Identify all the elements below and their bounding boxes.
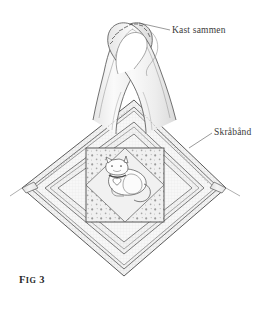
caption-number-value: 3 bbox=[39, 274, 45, 285]
cat-eye-left bbox=[111, 165, 113, 167]
center-panel bbox=[86, 148, 164, 222]
label-skraaband: Skråbånd bbox=[214, 127, 251, 137]
caption-prefix: F bbox=[19, 274, 26, 285]
cat-eye-right bbox=[120, 165, 122, 167]
figure-page: Kast sammen Skråbånd FIG 3 bbox=[0, 0, 268, 310]
bias-tape-right-tail bbox=[226, 188, 240, 196]
caption-small-caps: IG bbox=[26, 276, 36, 285]
label-kast-sammen: Kast sammen bbox=[172, 25, 226, 35]
figure-caption: FIG 3 bbox=[19, 274, 45, 285]
leader-line-skraaband bbox=[189, 133, 212, 148]
bias-tape-left-tail bbox=[10, 188, 22, 196]
potholder-diagram bbox=[0, 0, 268, 310]
